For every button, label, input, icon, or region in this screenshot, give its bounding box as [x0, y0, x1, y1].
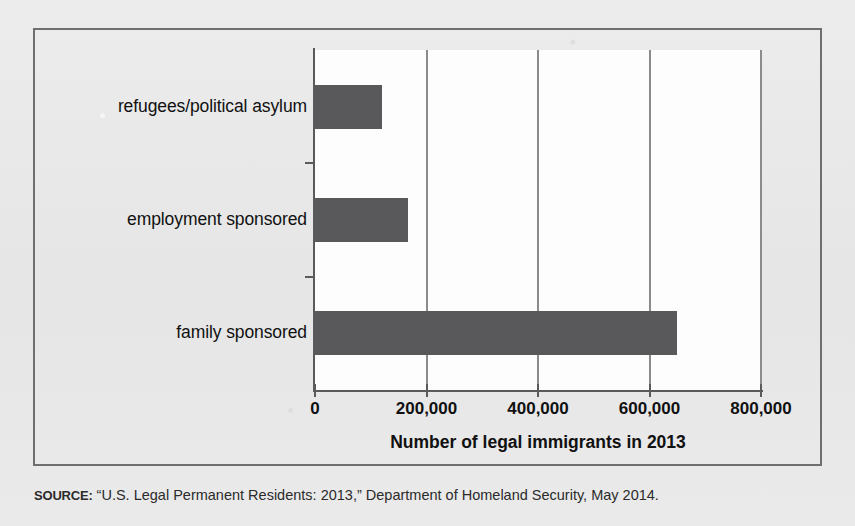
chart-figure: family sponsoredemployment sponsoredrefu… — [0, 0, 855, 526]
y-axis-category-labels: family sponsoredemployment sponsoredrefu… — [0, 0, 307, 400]
x-axis-tick-label: 400,000 — [507, 399, 568, 419]
source-text: “U.S. Legal Permanent Residents: 2013,” … — [93, 487, 659, 503]
x-axis-tick-label: 600,000 — [619, 399, 680, 419]
source-note: SOURCE: “U.S. Legal Permanent Residents:… — [34, 487, 659, 503]
x-axis-title: Number of legal immigrants in 2013 — [315, 432, 761, 453]
category-label: refugees/political asylum — [7, 96, 307, 117]
gridline — [760, 50, 762, 390]
y-axis-line — [313, 48, 315, 392]
x-axis-tick-label: 800,000 — [730, 399, 791, 419]
category-label: employment sponsored — [7, 209, 307, 230]
bar — [315, 198, 408, 242]
bar — [315, 311, 677, 355]
source-label: SOURCE: — [34, 488, 93, 503]
bar — [315, 85, 382, 129]
x-axis-tick-label: 200,000 — [396, 399, 457, 419]
x-axis-line — [313, 390, 763, 392]
x-axis-tick-label: 0 — [310, 399, 319, 419]
category-label: family sponsored — [7, 322, 307, 343]
